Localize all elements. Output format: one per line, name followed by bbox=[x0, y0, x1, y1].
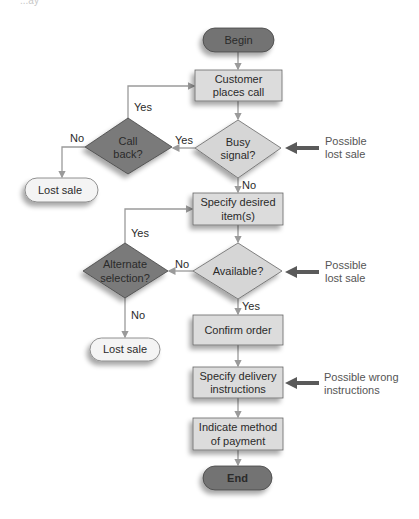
svg-text:Specify delivery: Specify delivery bbox=[199, 370, 277, 382]
svg-text:Alternate: Alternate bbox=[103, 258, 147, 270]
node-call-back: Call back? bbox=[85, 118, 172, 174]
svg-text:Busy: Busy bbox=[226, 136, 251, 148]
label-busy-yes: Yes bbox=[175, 134, 193, 146]
annotation-available: Possible lost sale bbox=[325, 259, 367, 284]
svg-text:Possible: Possible bbox=[325, 259, 367, 271]
svg-text:signal?: signal? bbox=[221, 149, 256, 161]
flowchart: ...ay Begin Customer places call Busy si… bbox=[0, 0, 419, 519]
node-specify-desired-items: Specify desired item(s) bbox=[193, 193, 283, 225]
svg-text:back?: back? bbox=[113, 148, 142, 160]
callout-arrow-available bbox=[285, 266, 319, 278]
node-lost-sale-1: Lost sale bbox=[25, 178, 98, 202]
svg-text:Confirm order: Confirm order bbox=[204, 324, 272, 336]
svg-text:selection?: selection? bbox=[100, 272, 150, 284]
svg-text:instructions: instructions bbox=[324, 384, 380, 396]
label-alternate-yes: Yes bbox=[131, 227, 149, 239]
label-callback-yes: Yes bbox=[134, 101, 152, 113]
label-alternate-no: No bbox=[131, 309, 145, 321]
svg-text:Specify desired: Specify desired bbox=[200, 196, 275, 208]
node-begin: Begin bbox=[203, 28, 274, 52]
node-customer-places-call: Customer places call bbox=[195, 70, 282, 101]
label-available-no: No bbox=[175, 258, 189, 270]
callout-arrow-busy bbox=[285, 142, 319, 154]
svg-text:of payment: of payment bbox=[211, 435, 265, 447]
label-callback-no: No bbox=[70, 132, 84, 144]
node-confirm-order: Confirm order bbox=[193, 315, 283, 345]
svg-text:Possible: Possible bbox=[325, 135, 367, 147]
node-alternate-selection: Alternate selection? bbox=[83, 243, 168, 298]
connectors bbox=[62, 52, 238, 465]
svg-text:Lost sale: Lost sale bbox=[38, 184, 82, 196]
svg-text:instructions: instructions bbox=[210, 383, 266, 395]
svg-text:Possible wrong: Possible wrong bbox=[324, 371, 399, 383]
svg-text:Begin: Begin bbox=[224, 34, 252, 46]
node-lost-sale-2: Lost sale bbox=[90, 338, 160, 361]
svg-text:Available?: Available? bbox=[213, 265, 264, 277]
node-indicate-method-of-payment: Indicate method of payment bbox=[193, 418, 283, 450]
node-busy-signal: Busy signal? bbox=[195, 120, 281, 178]
svg-text:Indicate method: Indicate method bbox=[199, 421, 277, 433]
svg-text:places call: places call bbox=[213, 86, 264, 98]
edge-callback-lostsale bbox=[62, 147, 85, 177]
svg-text:Customer: Customer bbox=[215, 73, 263, 85]
label-available-yes: Yes bbox=[242, 300, 260, 312]
annotation-delivery: Possible wrong instructions bbox=[324, 371, 399, 396]
header-fragment: ...ay bbox=[20, 0, 39, 6]
node-available: Available? bbox=[193, 243, 282, 299]
label-busy-no: No bbox=[242, 179, 256, 191]
svg-text:End: End bbox=[227, 472, 248, 484]
callout-arrows bbox=[285, 142, 319, 389]
node-specify-delivery-instructions: Specify delivery instructions bbox=[193, 367, 283, 398]
annotation-busy: Possible lost sale bbox=[325, 135, 367, 160]
svg-text:lost sale: lost sale bbox=[325, 148, 365, 160]
node-end: End bbox=[203, 466, 272, 490]
callout-arrow-delivery bbox=[285, 377, 319, 389]
svg-text:Call: Call bbox=[119, 135, 138, 147]
svg-text:item(s): item(s) bbox=[221, 210, 255, 222]
svg-text:Lost sale: Lost sale bbox=[103, 343, 147, 355]
svg-text:lost sale: lost sale bbox=[325, 272, 365, 284]
